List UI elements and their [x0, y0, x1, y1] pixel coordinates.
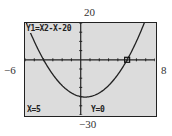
xmin-label: −6 [4, 64, 16, 76]
xmax-label: 8 [161, 64, 167, 76]
graph-plot [25, 23, 155, 115]
cursor-y-readout: Y=0 [91, 105, 105, 114]
ymax-label: 20 [84, 6, 95, 18]
ymin-label: −30 [79, 118, 96, 130]
calculator-graph-screen: Y1=X2-X-20 X=5 Y=0 [24, 22, 157, 117]
equation-label: Y1=X2-X-20 [26, 24, 71, 33]
cursor-x-readout: X=5 [27, 105, 41, 114]
